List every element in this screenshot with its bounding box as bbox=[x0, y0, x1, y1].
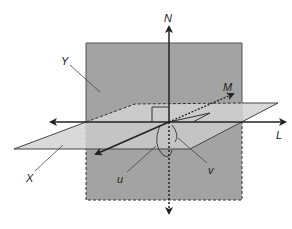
label-x: X bbox=[25, 172, 34, 184]
label-n: N bbox=[164, 12, 172, 24]
label-y: Y bbox=[61, 55, 69, 67]
label-l: L bbox=[276, 129, 282, 141]
planes-diagram: N M L Y X u v bbox=[0, 0, 292, 229]
label-u: u bbox=[117, 173, 123, 185]
label-m: M bbox=[223, 81, 233, 93]
